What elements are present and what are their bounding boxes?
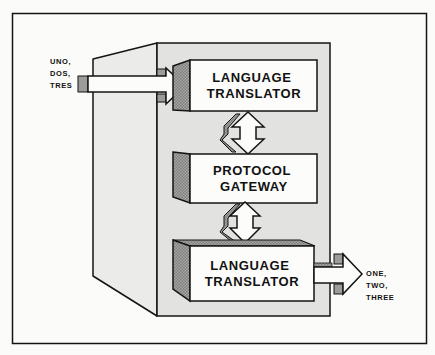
gateway-line1: PROTOCOL — [213, 163, 291, 178]
svg-text:LANGUAGE TRANSLATOR: LANGUAGE TRANSLATOR — [205, 258, 299, 289]
node-translator-bottom: LANGUAGE TRANSLATOR — [173, 240, 315, 301]
translator-bottom-line2: TRANSLATOR — [205, 274, 299, 289]
input-label: UNO, DOS, TRES — [50, 57, 74, 90]
translator-top-side — [173, 60, 190, 111]
output-label: ONE, TWO, THREE — [366, 269, 394, 302]
translator-bottom-line1: LANGUAGE — [210, 258, 289, 273]
gateway-line2: GATEWAY — [220, 179, 288, 194]
translator-bottom-top — [173, 240, 315, 246]
node-translator-top: LANGUAGE TRANSLATOR — [173, 60, 317, 111]
translator-top-line1: LANGUAGE — [212, 70, 291, 85]
gateway-side — [173, 152, 190, 203]
svg-text:PROTOCOL GATEWAY: PROTOCOL GATEWAY — [213, 163, 295, 194]
translator-top-line2: TRANSLATOR — [207, 86, 301, 101]
diagram-canvas: UNO, DOS, TRES LANGUAGE TRANSLATOR PROTO… — [0, 0, 435, 355]
svg-text:LANGUAGE TRANSLATOR: LANGUAGE TRANSLATOR — [207, 70, 301, 101]
node-protocol-gateway: PROTOCOL GATEWAY — [173, 152, 317, 203]
